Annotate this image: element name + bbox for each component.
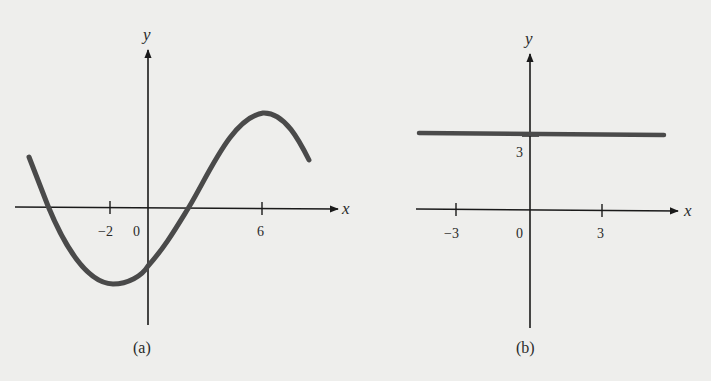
curve-a [29,113,309,284]
x-axis-a [15,207,338,209]
y-axis-label-b: y [523,29,533,48]
tick-label-3y-b: 3 [516,145,523,160]
tick-label-3x-b: 3 [597,226,604,241]
caption-b: (b) [516,339,535,357]
y-axis-label-a: y [141,25,151,44]
graph-b: y x −3 0 3 3 (b) [416,29,692,357]
figure: y x −2 0 6 (a) y x −3 0 3 3 (b) [0,0,711,381]
tick-label-neg3-b: −3 [444,226,459,241]
x-axis-label-b: x [683,201,692,220]
caption-a: (a) [133,339,151,357]
tick-label-neg2-a: −2 [98,224,113,239]
tick-label-0-b: 0 [516,226,523,241]
x-axis-label-a: x [341,199,350,218]
line-y3-b [419,133,664,135]
tick-label-0-a: 0 [133,224,140,239]
graph-a: y x −2 0 6 (a) [15,25,350,357]
tick-label-6-a: 6 [257,224,264,239]
